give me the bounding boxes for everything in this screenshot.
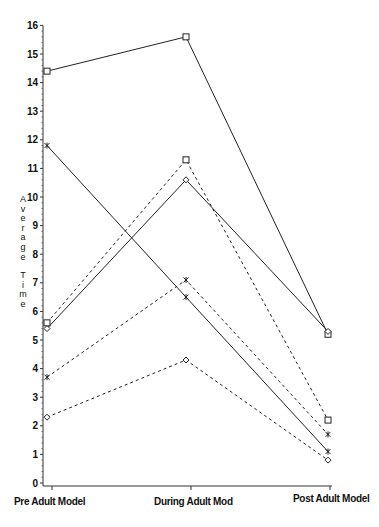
svg-text:11: 11 (27, 163, 38, 174)
square-marker (44, 320, 50, 326)
series-dashed-star (45, 277, 331, 437)
diamond-marker (183, 357, 189, 363)
data-series (44, 34, 331, 463)
star-marker (45, 374, 50, 380)
star-marker (326, 449, 331, 455)
svg-text:16: 16 (27, 20, 39, 31)
svg-text:12: 12 (27, 134, 39, 145)
svg-text:14: 14 (27, 77, 39, 88)
x-label-post: Post Adult Model (293, 493, 370, 504)
series-solid-diamond (44, 177, 331, 335)
x-label-pre: Pre Adult Model (14, 496, 85, 507)
x-label-during: During Adult Mod (154, 496, 233, 507)
svg-text:4: 4 (32, 363, 38, 374)
series-solid-square (44, 34, 331, 337)
square-marker (183, 157, 189, 163)
diamond-marker (44, 414, 50, 420)
square-marker (44, 68, 50, 74)
star-marker (184, 277, 189, 283)
svg-text:1: 1 (32, 449, 38, 460)
svg-text:0: 0 (32, 478, 38, 489)
diamond-marker (325, 457, 331, 463)
square-marker (325, 417, 331, 423)
svg-text:8: 8 (32, 249, 38, 260)
y-axis-label: AverageTime (17, 195, 29, 310)
star-marker (45, 143, 50, 149)
svg-text:15: 15 (27, 49, 39, 60)
star-marker (184, 294, 189, 300)
svg-text:5: 5 (32, 335, 38, 346)
svg-text:3: 3 (32, 392, 38, 403)
square-marker (183, 34, 189, 40)
star-marker (326, 431, 331, 437)
svg-text:2: 2 (32, 420, 38, 431)
axes (40, 25, 332, 490)
line-chart: 012345678910111213141516 (0, 0, 379, 527)
svg-text:7: 7 (32, 277, 38, 288)
series-solid-star (45, 143, 331, 455)
svg-text:9: 9 (32, 220, 38, 231)
svg-text:13: 13 (27, 106, 39, 117)
series-dashed-diamond (44, 357, 331, 463)
svg-text:6: 6 (32, 306, 38, 317)
series-dashed-square (44, 157, 331, 423)
